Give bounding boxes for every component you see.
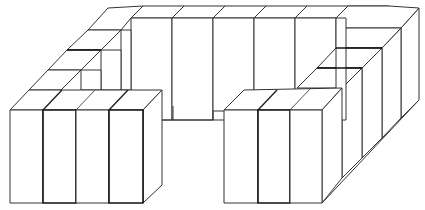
left-arm-inner-2 [101,50,121,90]
left-front-block-3 [76,110,109,203]
right-front-block-2 [258,110,290,203]
left-arm-top-2 [67,30,121,50]
back-block-2-front [172,18,213,120]
left-front-block-2 [43,110,76,203]
right-front-block-1 [224,110,258,203]
left-arm-inner-3 [81,70,101,90]
u-shaped-blocks-diagram: Line drawing of rectangular blocks arran… [0,0,425,210]
blocks-drawing [0,0,425,210]
left-front-side [143,90,162,203]
right-front-block-3 [290,110,322,203]
left-front-group [10,90,162,203]
left-arm-top-3 [48,50,101,70]
left-front-block-1 [10,110,43,203]
left-front-block-4 [109,110,143,203]
left-arm [29,6,143,90]
left-arm-top-4 [29,70,81,90]
left-arm-inner-1 [121,30,131,90]
